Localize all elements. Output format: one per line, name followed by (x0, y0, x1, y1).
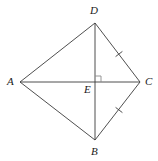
geometry-figure: A B C D E (0, 0, 158, 161)
segment-DC (95, 23, 140, 82)
kite-diagonals (20, 23, 140, 140)
vertex-label-B: B (91, 146, 98, 157)
tick-mark-dc (116, 51, 123, 56)
vertex-label-E: E (84, 84, 91, 95)
kite-diagram-svg (0, 0, 158, 161)
segment-CB (95, 82, 140, 140)
vertex-label-D: D (90, 5, 98, 16)
right-angle-icon (95, 76, 101, 82)
vertex-label-C: C (145, 76, 152, 87)
vertex-label-A: A (7, 76, 14, 87)
kite-outline (20, 23, 140, 140)
segment-AD (20, 23, 95, 82)
